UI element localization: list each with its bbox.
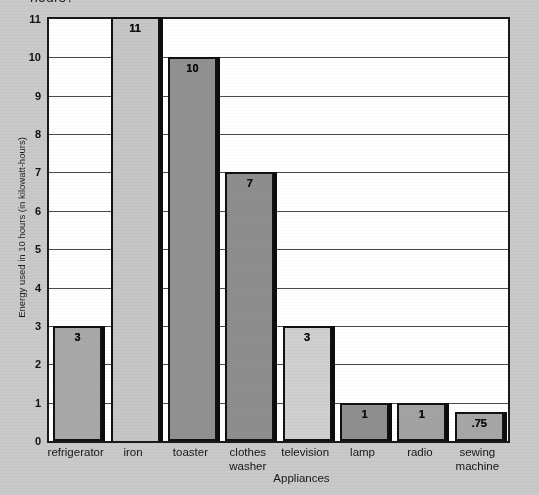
y-tick-1: 1 <box>35 397 41 408</box>
plot-area: 311107311.75 <box>47 17 510 443</box>
bar-sewing-machine: .75 <box>455 412 504 441</box>
y-tick-0: 0 <box>35 436 41 447</box>
bar-iron: 11 <box>111 17 160 441</box>
y-axis-tick-labels: 01234567891011 <box>0 0 47 495</box>
bar-value-label: 1 <box>419 409 425 420</box>
bar-value-label: 10 <box>186 63 198 74</box>
x-axis-title-text: Appliances <box>273 472 329 484</box>
category-label-line: washer <box>213 460 282 474</box>
y-tick-6: 6 <box>35 205 41 216</box>
bar-value-label: .75 <box>472 418 487 429</box>
bar-series: 311107311.75 <box>49 19 508 441</box>
category-label-line: machine <box>443 460 512 474</box>
bar-radio: 1 <box>397 403 446 441</box>
y-tick-10: 10 <box>29 52 41 63</box>
bar-television: 3 <box>283 326 332 441</box>
bar-value-label: 3 <box>75 332 81 343</box>
bar-lamp: 1 <box>340 403 389 441</box>
bar-refrigerator: 3 <box>53 326 102 441</box>
bar-toaster: 10 <box>168 57 217 441</box>
bar-value-label: 11 <box>129 23 141 34</box>
category-label-sewing-machine: sewingmachine <box>443 446 512 473</box>
y-tick-8: 8 <box>35 129 41 140</box>
y-tick-2: 2 <box>35 359 41 370</box>
y-tick-7: 7 <box>35 167 41 178</box>
bar-value-label: 1 <box>361 409 367 420</box>
bar-value-label: 3 <box>304 332 310 343</box>
y-tick-3: 3 <box>35 320 41 331</box>
chart-figure: hours? Energy used in 10 hours (in kilow… <box>0 0 539 495</box>
x-axis-title: Appliances <box>0 472 539 484</box>
bar-value-label: 7 <box>247 178 253 189</box>
y-tick-5: 5 <box>35 244 41 255</box>
y-tick-9: 9 <box>35 90 41 101</box>
bar-clothes-washer: 7 <box>225 172 274 441</box>
y-tick-4: 4 <box>35 282 41 293</box>
y-tick-11: 11 <box>29 14 41 25</box>
category-label-line: sewing <box>443 446 512 460</box>
